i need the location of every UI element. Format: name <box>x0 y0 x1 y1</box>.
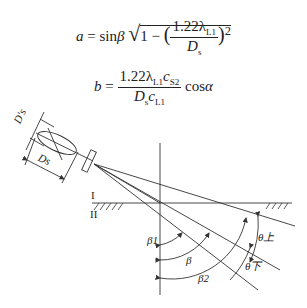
label-theta-upper: θ上 <box>258 231 275 243</box>
wedge <box>82 150 97 172</box>
label-ds-prime: D′s <box>11 107 28 126</box>
probe-diagram: D′s Ds I II β1 β β2 θ上 θ下 <box>0 0 307 308</box>
label-beta1: β1 <box>146 234 158 246</box>
label-beta: β <box>185 254 192 266</box>
label-beta2: β2 <box>197 272 209 284</box>
label-theta-lower: θ下 <box>245 260 263 272</box>
label-ds: Ds <box>36 151 53 167</box>
label-medium-2: II <box>90 208 98 220</box>
label-medium-1: I <box>91 189 95 201</box>
